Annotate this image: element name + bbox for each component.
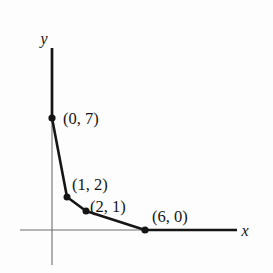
- point-label-2-1: (2, 1): [90, 197, 126, 216]
- point-label-1-2: (1, 2): [72, 175, 108, 194]
- data-point-0-7: [48, 114, 55, 121]
- data-point-6-0: [141, 226, 148, 233]
- point-label-6-0: (6, 0): [152, 207, 188, 226]
- x-axis-label: x: [240, 222, 248, 239]
- y-axis-label: y: [38, 30, 48, 48]
- data-point-2-1: [83, 208, 90, 215]
- graph-figure: y x (0, 7) (1, 2) (2, 1) (6, 0): [0, 0, 273, 273]
- coordinate-plot: y x (0, 7) (1, 2) (2, 1) (6, 0): [0, 0, 273, 273]
- point-label-0-7: (0, 7): [63, 109, 99, 128]
- data-point-1-2: [64, 194, 71, 201]
